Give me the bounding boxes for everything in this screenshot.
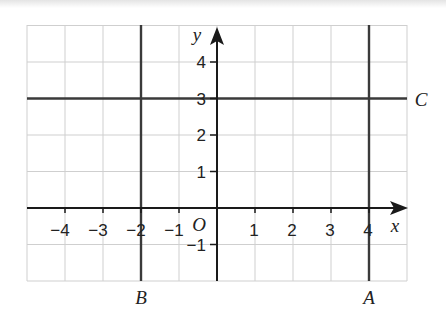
y-tick-label: 4 xyxy=(197,53,206,72)
x-tick-label: 4 xyxy=(363,221,372,240)
x-tick-label: −3 xyxy=(88,221,107,240)
x-tick-label: 1 xyxy=(249,221,258,240)
x-tick-label: −2 xyxy=(126,221,145,240)
origin-label: O xyxy=(192,214,206,235)
y-ticks xyxy=(210,62,217,245)
line-c-label: C xyxy=(415,89,428,110)
x-tick-label: −4 xyxy=(50,221,69,240)
x-tick-label: 3 xyxy=(325,221,334,240)
x-tick-label: 2 xyxy=(287,221,296,240)
y-tick-label: 1 xyxy=(197,163,206,182)
line-b-label: B xyxy=(135,287,147,308)
x-tick-label: −1 xyxy=(164,221,183,240)
x-axis-label: x xyxy=(390,215,400,236)
coordinate-grid-diagram: −4 −3 −2 −1 1 2 3 4 4 3 2 1 −1 y x O C B… xyxy=(0,0,446,322)
line-a-label: A xyxy=(361,287,375,308)
y-tick-label: 2 xyxy=(197,126,206,145)
y-axis-label: y xyxy=(191,24,202,45)
y-tick-label: −1 xyxy=(187,236,206,255)
y-tick-label: 3 xyxy=(197,90,206,109)
